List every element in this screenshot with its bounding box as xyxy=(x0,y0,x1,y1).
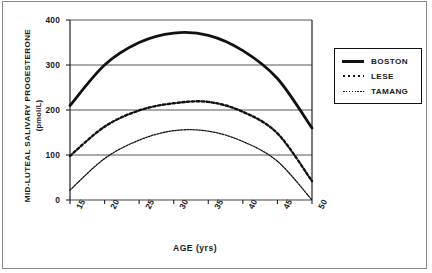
data-series-group xyxy=(70,32,312,200)
legend-label: TAMANG xyxy=(371,87,408,96)
legend-label: BOSTON xyxy=(371,57,408,66)
legend-item-lese: LESE xyxy=(342,70,394,82)
plot-canvas xyxy=(0,0,432,273)
legend-item-boston: BOSTON xyxy=(342,55,408,67)
series-line-tamang xyxy=(70,130,312,200)
series-line-lese xyxy=(70,101,312,181)
chart-figure: MID-LUTEAL SALIVARY PROGESTERONE (pmol/L… xyxy=(0,0,432,273)
legend-label: LESE xyxy=(371,72,394,81)
legend-swatch-icon xyxy=(342,86,364,96)
series-line-boston xyxy=(70,32,312,128)
legend-swatch-icon xyxy=(342,56,364,66)
legend-item-tamang: TAMANG xyxy=(342,85,408,97)
legend-swatch-icon xyxy=(342,71,364,81)
gridlines xyxy=(70,20,312,200)
legend: BOSTONLESETAMANG xyxy=(334,48,422,104)
axis-ticks xyxy=(66,20,312,204)
